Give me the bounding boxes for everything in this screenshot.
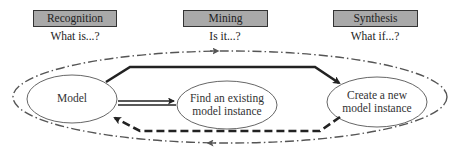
stage-header-synthesis: Synthesis bbox=[333, 10, 418, 27]
create-instance-label-line1: Create a new bbox=[327, 89, 427, 102]
double-arrow-model-to-find bbox=[118, 101, 176, 105]
model-label: Model bbox=[32, 92, 112, 105]
find-instance-label-line2: model instance bbox=[177, 105, 277, 118]
find-instance-label: Find an existing model instance bbox=[177, 92, 277, 118]
create-instance-label: Create a new model instance bbox=[327, 89, 427, 115]
find-instance-label-line1: Find an existing bbox=[177, 92, 277, 105]
stage-header-mining: Mining bbox=[183, 10, 268, 27]
stage-question-synthesis: What if...? bbox=[325, 30, 425, 42]
create-instance-label-line2: model instance bbox=[327, 102, 427, 115]
diagram: Recognition Mining Synthesis What is...?… bbox=[0, 0, 460, 153]
stage-header-recognition: Recognition bbox=[33, 10, 117, 27]
stage-question-recognition: What is...? bbox=[25, 30, 125, 42]
solid-arrow-model-to-create bbox=[106, 67, 339, 83]
stage-question-mining: Is it...? bbox=[175, 30, 275, 42]
